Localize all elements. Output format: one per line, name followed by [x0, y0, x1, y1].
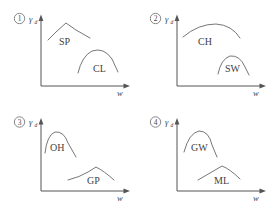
- panel-3-number-badge: 3: [14, 117, 24, 127]
- y-axis-arrow-icon: [39, 118, 44, 125]
- curve-label-gw: GW: [191, 142, 208, 153]
- x-axis-symbol: w: [117, 193, 123, 203]
- panel-number-label: 4: [154, 118, 158, 127]
- panel-1-number-badge: 1: [14, 13, 24, 23]
- panel-4-plot: 4 γ d w GW ML: [136, 105, 273, 214]
- curve-label-gp: GP: [87, 175, 100, 186]
- panel-number-label: 1: [18, 14, 22, 23]
- y-axis-subscript: d: [171, 19, 174, 25]
- y-axis-symbol: γ: [29, 117, 33, 127]
- x-axis-symbol: w: [117, 88, 123, 98]
- panel-1-plot: 1 γ d w SP CL: [0, 0, 136, 105]
- panel-3: 3 γ d w OH GP: [0, 105, 136, 214]
- y-axis-symbol: γ: [165, 14, 169, 24]
- x-axis-arrow-icon: [124, 189, 131, 194]
- curve-label-ch: CH: [198, 36, 212, 47]
- curve-label-sw: SW: [225, 63, 241, 74]
- panel-1: 1 γ d w SP CL: [0, 0, 136, 105]
- panel-number-label: 3: [18, 118, 22, 127]
- y-axis-subscript: d: [171, 122, 174, 128]
- y-axis-symbol: γ: [165, 117, 169, 127]
- panel-number-label: 2: [154, 14, 158, 23]
- curve-label-cl: CL: [93, 63, 106, 74]
- panel-2-number-badge: 2: [150, 13, 160, 23]
- curve-label-ml: ML: [214, 175, 229, 186]
- x-axis-symbol: w: [253, 193, 259, 203]
- y-axis-symbol: γ: [29, 14, 33, 24]
- x-axis-arrow-icon: [260, 84, 267, 89]
- y-axis-arrow-icon: [39, 15, 44, 22]
- panel-2-plot: 2 γ d w CH SW: [136, 0, 273, 105]
- y-axis-subscript: d: [35, 19, 38, 25]
- x-axis-symbol: w: [253, 88, 259, 98]
- x-axis-arrow-icon: [124, 84, 131, 89]
- curve-label-oh: OH: [50, 142, 64, 153]
- panel-4-number-badge: 4: [150, 117, 160, 127]
- figure-panel-grid: 1 γ d w SP CL 2 γ d w: [0, 0, 273, 214]
- curve-label-sp: SP: [59, 36, 71, 47]
- y-axis-arrow-icon: [175, 15, 180, 22]
- x-axis-arrow-icon: [260, 189, 267, 194]
- y-axis-subscript: d: [35, 122, 38, 128]
- panel-4: 4 γ d w GW ML: [136, 105, 273, 214]
- panel-2: 2 γ d w CH SW: [136, 0, 273, 105]
- y-axis-arrow-icon: [175, 118, 180, 125]
- panel-3-plot: 3 γ d w OH GP: [0, 105, 136, 214]
